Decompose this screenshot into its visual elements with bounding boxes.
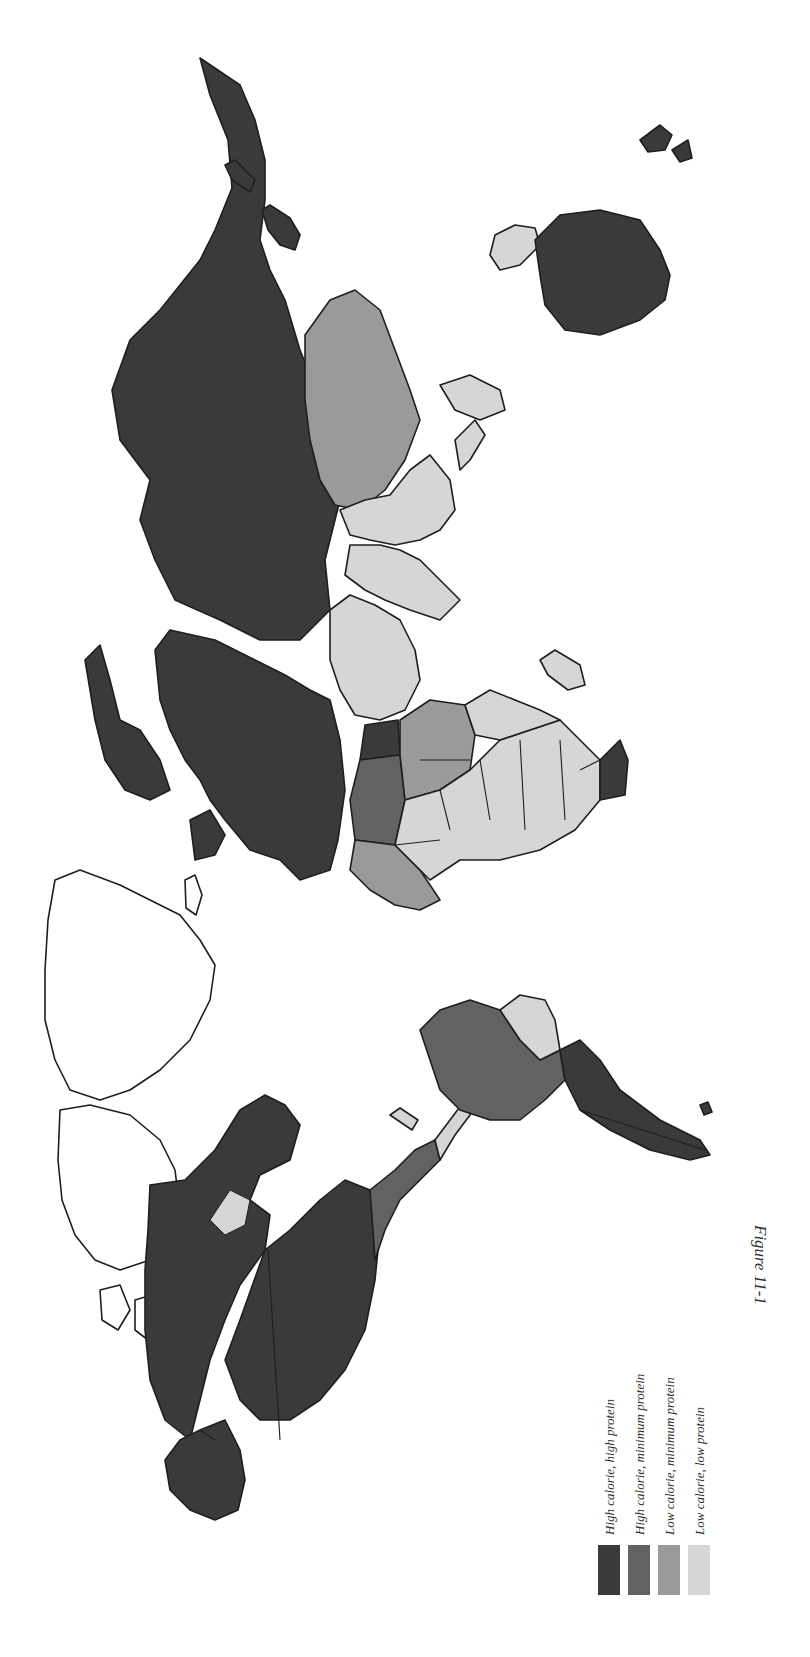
region-alaska — [165, 1420, 245, 1520]
region-middle-east — [330, 595, 420, 720]
region-new-zealand — [640, 125, 672, 152]
region-australia — [535, 210, 670, 335]
legend: High calorie, high protein High calorie,… — [598, 1225, 738, 1605]
legend-swatch — [628, 1545, 650, 1595]
legend-label: Low calorie, minimum protein — [662, 1377, 678, 1535]
region-northwest-africa — [350, 755, 405, 845]
legend-swatch — [688, 1545, 710, 1595]
legend-swatch — [598, 1545, 620, 1595]
region-north-africa-libya — [360, 720, 400, 760]
region-china — [305, 290, 420, 510]
region-mexico — [370, 1140, 440, 1260]
legend-swatch — [658, 1545, 680, 1595]
region-indonesia — [440, 375, 505, 420]
region-baffin-island — [185, 875, 202, 915]
region-madagascar — [540, 650, 585, 690]
region-south-africa — [600, 740, 628, 800]
region-new-zealand-south — [672, 140, 692, 162]
figure-caption: Figure 11-1 — [750, 1225, 770, 1305]
region-falklands — [700, 1102, 712, 1115]
region-new-guinea — [490, 225, 540, 270]
region-europe — [155, 630, 345, 880]
region-japan — [262, 205, 300, 250]
legend-label: Low calorie, low protein — [692, 1407, 708, 1535]
region-arctic-island — [100, 1285, 130, 1330]
legend-label: High calorie, high protein — [602, 1399, 618, 1535]
region-argentina — [560, 1040, 710, 1160]
region-cuba — [390, 1108, 418, 1130]
legend-label: High calorie, minimum protein — [632, 1374, 648, 1535]
region-sumatra — [455, 420, 485, 470]
region-british-isles — [190, 810, 225, 860]
